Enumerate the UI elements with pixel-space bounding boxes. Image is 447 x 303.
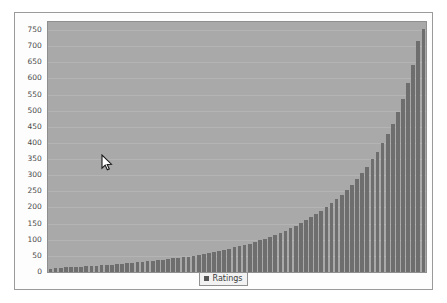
bar[interactable] bbox=[422, 29, 426, 272]
bar[interactable] bbox=[212, 252, 216, 272]
bar[interactable] bbox=[233, 247, 237, 272]
bar[interactable] bbox=[202, 254, 206, 272]
bar[interactable] bbox=[345, 190, 349, 272]
bar[interactable] bbox=[136, 262, 140, 272]
bar[interactable] bbox=[90, 266, 94, 272]
bar[interactable] bbox=[386, 134, 390, 272]
bar[interactable] bbox=[284, 231, 288, 272]
y-axis-tick-label: 550 bbox=[27, 91, 42, 99]
bar[interactable] bbox=[299, 223, 303, 272]
bar[interactable] bbox=[243, 245, 247, 272]
bar[interactable] bbox=[146, 261, 150, 272]
y-axis-tick-label: 500 bbox=[27, 107, 42, 115]
y-axis-tick-label: 50 bbox=[32, 252, 42, 260]
y-axis-tick-label: 100 bbox=[27, 236, 42, 244]
bar[interactable] bbox=[161, 260, 165, 272]
y-axis-tick-label: 200 bbox=[27, 203, 42, 211]
bar[interactable] bbox=[171, 258, 175, 272]
y-axis-tick-label: 150 bbox=[27, 220, 42, 228]
bar[interactable] bbox=[381, 143, 385, 272]
bar[interactable] bbox=[391, 124, 395, 272]
bar[interactable] bbox=[258, 240, 262, 272]
bar[interactable] bbox=[54, 268, 58, 272]
bar[interactable] bbox=[156, 260, 160, 272]
bar[interactable] bbox=[396, 112, 400, 272]
bar[interactable] bbox=[120, 264, 124, 272]
bar[interactable] bbox=[197, 255, 201, 272]
y-axis-tick-label: 750 bbox=[27, 26, 42, 34]
bar[interactable] bbox=[335, 199, 339, 272]
bar[interactable] bbox=[187, 257, 191, 272]
bar[interactable] bbox=[192, 256, 196, 272]
bar[interactable] bbox=[325, 207, 329, 272]
bar[interactable] bbox=[166, 259, 170, 272]
bar[interactable] bbox=[238, 246, 242, 272]
y-axis-tick-label: 0 bbox=[37, 268, 42, 276]
bar[interactable] bbox=[125, 263, 129, 272]
bar-series-ratings bbox=[48, 22, 426, 272]
bar[interactable] bbox=[294, 226, 298, 272]
bar[interactable] bbox=[95, 266, 99, 272]
y-axis-tick-label: 350 bbox=[27, 155, 42, 163]
plot-area bbox=[47, 21, 427, 273]
bar[interactable] bbox=[309, 217, 313, 272]
bar[interactable] bbox=[151, 261, 155, 272]
bar[interactable] bbox=[401, 99, 405, 272]
bar[interactable] bbox=[141, 262, 145, 272]
y-axis-tick-label: 400 bbox=[27, 139, 42, 147]
bar[interactable] bbox=[330, 203, 334, 272]
bar[interactable] bbox=[115, 264, 119, 272]
bar[interactable] bbox=[222, 250, 226, 272]
bar[interactable] bbox=[411, 65, 415, 272]
bar[interactable] bbox=[263, 239, 267, 272]
y-axis-tick-label: 700 bbox=[27, 42, 42, 50]
bar[interactable] bbox=[176, 258, 180, 272]
bar[interactable] bbox=[248, 244, 252, 272]
bar[interactable] bbox=[100, 265, 104, 272]
bar[interactable] bbox=[79, 267, 83, 272]
y-axis-tick-label: 450 bbox=[27, 123, 42, 131]
bar[interactable] bbox=[207, 253, 211, 272]
y-axis: 0501001502002503003504004505005506006507… bbox=[15, 21, 45, 273]
bar[interactable] bbox=[273, 235, 277, 272]
bar[interactable] bbox=[289, 228, 293, 272]
bar[interactable] bbox=[416, 41, 420, 272]
bar[interactable] bbox=[355, 179, 359, 272]
bar[interactable] bbox=[84, 266, 88, 272]
bar[interactable] bbox=[105, 265, 109, 272]
bar[interactable] bbox=[268, 237, 272, 272]
bar[interactable] bbox=[360, 173, 364, 272]
bar[interactable] bbox=[130, 263, 134, 272]
bar[interactable] bbox=[74, 267, 78, 272]
bar[interactable] bbox=[340, 195, 344, 272]
bar[interactable] bbox=[371, 159, 375, 272]
bar[interactable] bbox=[319, 211, 323, 272]
y-axis-tick-label: 650 bbox=[27, 58, 42, 66]
bar[interactable] bbox=[365, 167, 369, 272]
bar[interactable] bbox=[253, 242, 257, 272]
bar[interactable] bbox=[69, 267, 73, 272]
chart-legend[interactable]: Ratings bbox=[199, 272, 249, 286]
bar[interactable] bbox=[217, 251, 221, 272]
y-axis-tick-label: 300 bbox=[27, 171, 42, 179]
y-axis-tick-label: 250 bbox=[27, 187, 42, 195]
bar[interactable] bbox=[350, 185, 354, 272]
legend-label-ratings: Ratings bbox=[213, 274, 243, 283]
bar[interactable] bbox=[304, 220, 308, 272]
bar[interactable] bbox=[59, 268, 63, 272]
legend-swatch-ratings bbox=[204, 276, 209, 281]
bar[interactable] bbox=[182, 257, 186, 272]
y-axis-tick-label: 600 bbox=[27, 74, 42, 82]
bar[interactable] bbox=[279, 233, 283, 272]
bar[interactable] bbox=[110, 265, 114, 272]
bar[interactable] bbox=[314, 214, 318, 272]
bar[interactable] bbox=[406, 83, 410, 272]
bar[interactable] bbox=[64, 267, 68, 272]
bar[interactable] bbox=[376, 152, 380, 272]
chart-panel: 0501001502002503003504004505005506006507… bbox=[14, 12, 433, 290]
bar[interactable] bbox=[49, 269, 53, 272]
bar[interactable] bbox=[227, 249, 231, 272]
